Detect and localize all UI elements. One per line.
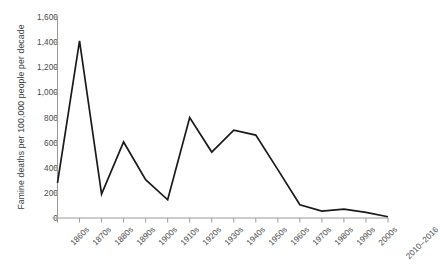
data-series-line: [58, 41, 389, 217]
axes: [58, 17, 389, 218]
